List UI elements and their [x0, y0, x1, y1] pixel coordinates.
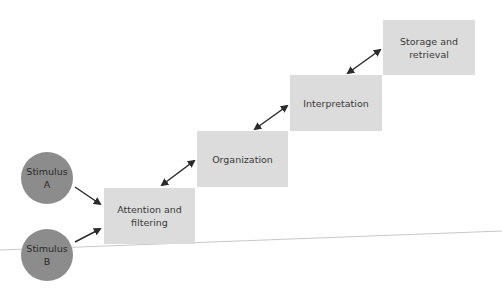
arrow-stimulus-b-to-attention	[75, 229, 100, 242]
arrow-organization-interpretation	[255, 106, 287, 129]
stage-interpretation: Interpretation	[290, 75, 382, 131]
stimulus-a-label: Stimulus A	[26, 165, 67, 191]
stage-organization: Organization	[197, 131, 288, 187]
arrow-attention-organization	[162, 161, 194, 185]
stimulus-b-label: Stimulus B	[26, 242, 67, 268]
stage-label: Storage and retrieval	[400, 35, 458, 61]
stage-label: Attention and filtering	[117, 203, 182, 229]
ground-line	[0, 231, 502, 250]
stage-label: Interpretation	[303, 97, 369, 110]
stage-attention-filtering: Attention and filtering	[104, 188, 195, 244]
stimulus-b-node: Stimulus B	[21, 229, 73, 281]
arrow-stimulus-a-to-attention	[75, 187, 100, 204]
stage-storage-retrieval: Storage and retrieval	[383, 20, 475, 75]
stage-label: Organization	[212, 153, 273, 166]
arrow-interpretation-storage	[348, 50, 380, 73]
stimulus-a-node: Stimulus A	[21, 152, 73, 204]
